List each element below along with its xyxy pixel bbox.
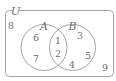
element-8: 8	[8, 20, 14, 31]
element-7: 7	[33, 53, 39, 64]
element-5: 5	[85, 50, 91, 61]
element-4: 4	[69, 59, 75, 70]
set-b-label: B	[67, 20, 76, 33]
element-9: 9	[102, 62, 108, 73]
element-2: 2	[55, 48, 61, 59]
element-3: 3	[77, 30, 83, 41]
set-a-label: A	[39, 20, 48, 33]
element-6: 6	[33, 32, 39, 43]
element-1: 1	[55, 35, 61, 46]
universe-label: U	[11, 4, 21, 18]
venn-diagram-figure: U A B 8 6 7 1 2 3 5 4 9	[0, 0, 116, 81]
